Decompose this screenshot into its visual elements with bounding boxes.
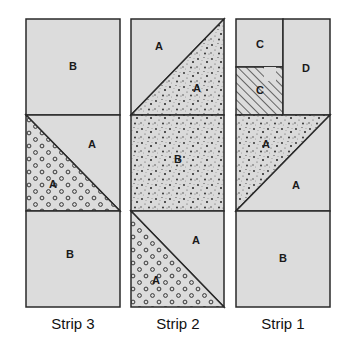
strip-1: C C D A A B [236,19,330,307]
label: A [192,234,200,246]
label: A [193,82,201,94]
label-backdrop [264,67,276,81]
label: A [152,274,160,286]
label: C [256,38,264,50]
label: A [155,40,163,52]
strip-3: B A A B [26,19,120,307]
quilt-strips-diagram: B A A B A A B A A C C D A A B Strip 3 St… [0,0,345,349]
label: A [88,138,96,150]
strip-3-caption: Strip 3 [51,315,94,332]
label: B [69,60,77,72]
strip-1-caption: Strip 1 [261,315,304,332]
label: C [256,84,264,96]
label: D [302,62,310,74]
strip-2: A A B A A [131,19,224,307]
label: A [49,178,57,190]
label: B [66,248,74,260]
label: A [292,179,300,191]
label: B [279,252,287,264]
strip-2-caption: Strip 2 [156,315,199,332]
label: A [262,138,270,150]
label: B [174,153,182,165]
